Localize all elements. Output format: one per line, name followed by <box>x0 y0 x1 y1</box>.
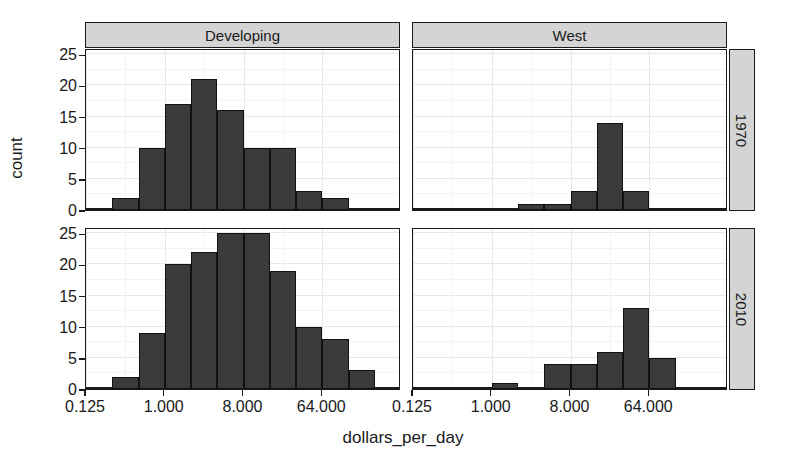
histogram-bar <box>139 333 165 389</box>
histogram-bar <box>349 370 375 389</box>
y-axis-tick-mark <box>79 117 85 118</box>
histogram-bar <box>112 198 138 210</box>
gridline-horizontal <box>413 232 726 233</box>
gridline-vertical-minor <box>452 229 453 389</box>
histogram-bar <box>322 339 348 389</box>
gridline-horizontal <box>413 178 726 179</box>
histogram-bar <box>375 208 400 210</box>
facet-strip-developing: Developing <box>85 22 400 48</box>
gridline-vertical-minor <box>125 50 126 210</box>
gridline-horizontal-minor <box>413 279 726 280</box>
histogram-bar <box>165 104 191 210</box>
histogram-bar <box>270 148 296 210</box>
y-axis-tick-mark <box>79 148 85 149</box>
histogram-bar <box>165 264 191 389</box>
histogram-bar <box>466 208 492 210</box>
x-axis-tick-label: 64.000 <box>297 399 346 415</box>
panel-developing-2010 <box>85 228 400 390</box>
histogram-bar <box>191 79 217 210</box>
y-axis-tick-label: 15 <box>41 110 77 126</box>
histogram-bar <box>597 352 623 389</box>
gridline-horizontal <box>86 84 399 85</box>
gridline-vertical-minor <box>531 229 532 389</box>
y-axis-tick-label: 20 <box>41 78 77 94</box>
x-axis-tick-mark <box>163 390 164 396</box>
gridline-vertical <box>649 50 650 210</box>
y-axis-tick-label: 5 <box>41 351 77 367</box>
plot-area-west-2010 <box>413 229 726 389</box>
gridline-horizontal-minor <box>86 69 399 70</box>
histogram-bar <box>439 208 465 210</box>
panel-west-1970 <box>412 49 727 211</box>
histogram-bar <box>676 208 702 210</box>
gridline-vertical <box>571 50 572 210</box>
gridline-horizontal <box>413 357 726 358</box>
histogram-bar <box>702 208 727 210</box>
histogram-bar <box>191 252 217 389</box>
histogram-bar <box>571 364 597 389</box>
gridline-horizontal-minor <box>413 248 726 249</box>
y-axis-tick-label: 25 <box>41 226 77 242</box>
y-axis-tick-mark <box>79 296 85 297</box>
gridline-horizontal <box>86 53 399 54</box>
gridline-horizontal-minor <box>413 100 726 101</box>
gridline-horizontal-minor <box>413 310 726 311</box>
facet-strip-2010: 2010 <box>729 228 755 390</box>
histogram-bar <box>296 191 322 210</box>
x-axis-tick-mark <box>648 390 649 396</box>
gridline-vertical <box>86 229 87 389</box>
histogram-bar <box>518 204 544 210</box>
x-axis-title: dollars_per_day <box>85 428 721 448</box>
x-axis-tick-label: 64.000 <box>624 399 673 415</box>
histogram-bar <box>439 387 465 389</box>
gridline-vertical-minor <box>531 50 532 210</box>
gridline-vertical <box>413 229 414 389</box>
facet-strip-west: West <box>412 22 727 48</box>
panel-developing-1970 <box>85 49 400 211</box>
y-axis-tick-mark <box>79 327 85 328</box>
gridline-horizontal <box>413 116 726 117</box>
y-axis-tick-label: 25 <box>41 47 77 63</box>
histogram-bar <box>649 358 675 389</box>
y-axis-tick-label: 10 <box>41 320 77 336</box>
y-axis-tick-label: 20 <box>41 257 77 273</box>
histogram-bar <box>466 387 492 389</box>
gridline-vertical <box>322 50 323 210</box>
y-axis-tick-mark <box>79 179 85 180</box>
histogram-bar <box>544 364 570 389</box>
x-axis-tick-mark <box>242 390 243 396</box>
facet-strip-developing-label: Developing <box>205 27 280 44</box>
y-axis-tick-label: 0 <box>41 203 77 219</box>
gridline-vertical-minor <box>452 50 453 210</box>
y-axis-tick-label: 15 <box>41 289 77 305</box>
gridline-horizontal-minor <box>413 162 726 163</box>
histogram-bar <box>492 383 518 389</box>
histogram-bar <box>518 387 544 389</box>
x-axis-tick-mark <box>490 390 491 396</box>
gridline-horizontal-minor <box>413 131 726 132</box>
gridline-vertical-minor <box>125 229 126 389</box>
histogram-bar <box>623 191 649 210</box>
histogram-bar <box>349 208 375 210</box>
x-axis-tick-label: 0.125 <box>65 399 105 415</box>
histogram-bar <box>112 377 138 389</box>
gridline-horizontal <box>413 326 726 327</box>
gridline-vertical <box>413 50 414 210</box>
plot-area-west-1970 <box>413 50 726 210</box>
x-axis-tick-label: 0.125 <box>392 399 432 415</box>
y-axis-tick-label: 5 <box>41 172 77 188</box>
histogram-bar <box>139 148 165 210</box>
histogram-bar <box>296 327 322 389</box>
y-axis-tick-mark <box>79 210 85 211</box>
facet-strip-west-label: West <box>553 27 587 44</box>
facet-strip-2010-label: 2010 <box>734 292 751 325</box>
x-axis-tick-mark <box>84 390 85 396</box>
gridline-vertical <box>86 50 87 210</box>
histogram-bar <box>649 208 675 210</box>
plot-area-developing-1970 <box>86 50 399 210</box>
histogram-bar <box>244 233 270 389</box>
histogram-bar <box>270 271 296 389</box>
gridline-horizontal-minor <box>86 100 399 101</box>
y-axis-tick-label: 0 <box>41 382 77 398</box>
facet-strip-1970-label: 1970 <box>734 113 751 146</box>
